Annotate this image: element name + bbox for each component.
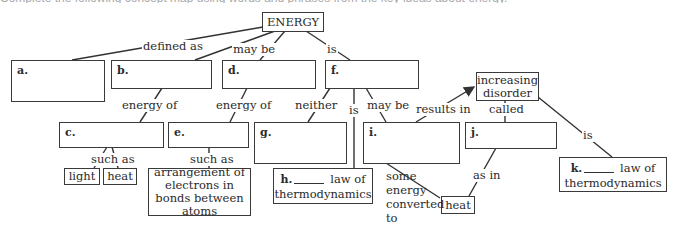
node-k-letter: k. xyxy=(571,162,582,175)
node-energy: ENERGY xyxy=(262,12,324,32)
link-label-some-energy: some energy converted to xyxy=(385,169,449,225)
node-k-line2: thermodynamics xyxy=(560,176,666,190)
node-heat-c-label: heat xyxy=(107,170,133,183)
link-label-results-in: results in xyxy=(415,103,472,116)
node-k-blank[interactable] xyxy=(584,172,614,173)
link-label-such-as-c: such as xyxy=(90,153,136,166)
node-f[interactable]: f. xyxy=(325,60,419,89)
link-label-called: called xyxy=(488,103,525,116)
link-label-is-h: is xyxy=(349,104,359,117)
node-increasing-disorder-label: increasing disorder xyxy=(477,74,538,100)
node-a[interactable]: a. xyxy=(11,60,105,102)
node-g[interactable]: g. xyxy=(254,122,347,164)
link-label-is-top: is xyxy=(326,43,338,56)
node-h-blank[interactable] xyxy=(294,183,324,184)
node-a-letter: a. xyxy=(17,64,28,77)
node-h-suffix: law of xyxy=(330,172,365,186)
node-i-letter: i. xyxy=(369,126,377,139)
link-label-neither: neither xyxy=(294,99,338,112)
node-arrangement: arrangement of electrons in bonds betwee… xyxy=(148,168,251,216)
link-label-is-k: is xyxy=(582,129,594,142)
node-b-letter: b. xyxy=(117,64,129,77)
link-label-may-be-top: may be xyxy=(232,43,276,56)
node-j[interactable]: j. xyxy=(465,122,557,149)
node-f-letter: f. xyxy=(331,64,339,77)
link-label-energy-of-d: energy of xyxy=(215,99,272,112)
node-h-letter: h. xyxy=(280,173,292,186)
node-k-suffix: law of xyxy=(620,161,655,175)
node-d[interactable]: d. xyxy=(222,60,316,89)
node-arrangement-label: arrangement of electrons in bonds betwee… xyxy=(153,166,246,218)
node-c-letter: c. xyxy=(65,126,76,139)
node-d-letter: d. xyxy=(228,64,240,77)
node-h[interactable]: h.law of thermodynamics xyxy=(273,168,373,204)
node-i[interactable]: i. xyxy=(363,122,460,164)
link-label-such-as-e: such as xyxy=(189,153,235,166)
node-energy-label: ENERGY xyxy=(267,16,319,29)
link-label-may-be-i: may be xyxy=(366,99,410,112)
link-label-defined-as: defined as xyxy=(142,40,204,53)
node-e-letter: e. xyxy=(174,126,185,139)
node-b[interactable]: b. xyxy=(111,60,212,89)
node-heat-c: heat xyxy=(103,168,137,185)
node-e[interactable]: e. xyxy=(168,122,249,148)
node-light-label: light xyxy=(69,170,96,183)
link-label-energy-of-b: energy of xyxy=(121,99,178,112)
node-k[interactable]: k.law of thermodynamics xyxy=(559,157,667,192)
node-h-line2: thermodynamics xyxy=(274,187,372,201)
node-light: light xyxy=(64,168,100,185)
node-c[interactable]: c. xyxy=(59,122,164,148)
link-label-as-in: as in xyxy=(472,169,502,182)
node-g-letter: g. xyxy=(260,126,272,139)
node-j-letter: j. xyxy=(471,126,479,139)
node-increasing-disorder: increasing disorder xyxy=(476,72,539,101)
